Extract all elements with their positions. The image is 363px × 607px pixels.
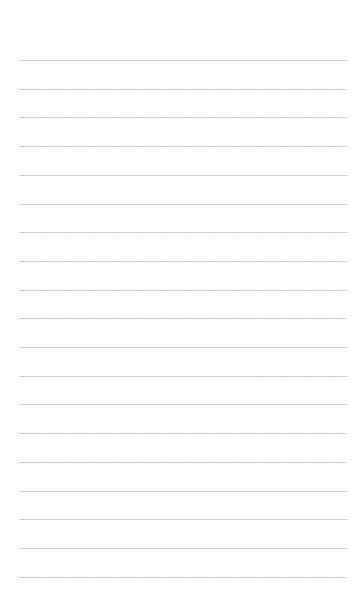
ruled-line <box>19 347 347 348</box>
ruled-line <box>19 548 347 549</box>
ruled-line <box>19 117 347 118</box>
ruled-line <box>19 232 347 233</box>
ruled-line <box>19 290 347 291</box>
ruled-line <box>19 433 347 434</box>
ruled-line <box>19 204 347 205</box>
ruled-line <box>19 519 347 520</box>
ruled-line <box>19 318 347 319</box>
ruled-line <box>19 175 347 176</box>
ruled-line <box>19 376 347 377</box>
ruled-line <box>19 261 347 262</box>
ruled-line <box>19 577 347 578</box>
ruled-line <box>19 462 347 463</box>
ruled-line <box>19 491 347 492</box>
notebook-page <box>0 0 363 607</box>
ruled-line <box>19 89 347 90</box>
ruled-line <box>19 60 347 61</box>
ruled-line <box>19 146 347 147</box>
ruled-line <box>19 404 347 405</box>
